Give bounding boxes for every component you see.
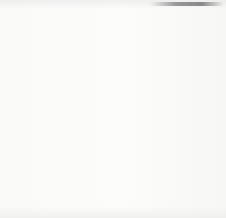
node-circle-mother[interactable]: [157, 14, 215, 72]
arrowhead-fetus-to-mother-mid: [124, 121, 133, 131]
node-circle-father[interactable]: [14, 16, 70, 72]
node-circle-fetus[interactable]: [87, 152, 145, 210]
edge-fetus-to-mother: [126, 67, 155, 155]
edge-father-to-fetus: [43, 72, 89, 165]
rh-incompatibility-diagram: Father Rh + Mother Rh — Fetus Rh+ R.B.C.…: [0, 0, 226, 218]
arrowhead-father-to-fetus: [42, 101, 50, 112]
diagram-canvas: [0, 0, 226, 218]
edge-mother-to-fetus: [145, 68, 204, 163]
